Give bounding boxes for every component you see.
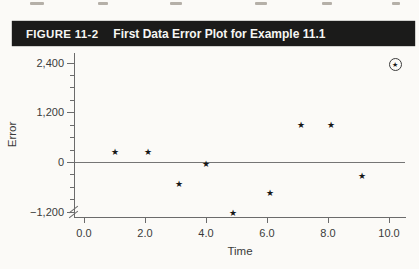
data-point-star: ★: [110, 147, 120, 157]
y-minor-tick: [70, 187, 74, 188]
data-point-star: ★: [326, 120, 336, 130]
x-major-tick: [328, 218, 329, 223]
y-minor-tick: [70, 150, 74, 151]
y-axis-line: [74, 53, 75, 218]
x-tick-label: 4.0: [189, 227, 223, 240]
y-minor-tick: [70, 137, 74, 138]
x-tick-label: 0.0: [67, 227, 101, 240]
y-minor-tick: [70, 125, 74, 126]
y-tick-label: −1,200: [22, 206, 64, 219]
y-tick-label: 2,400: [22, 57, 64, 70]
y-major-tick: [67, 162, 74, 163]
x-major-tick: [389, 218, 390, 223]
x-tick-label: 6.0: [250, 227, 284, 240]
data-point-star: ★: [143, 147, 153, 157]
x-tick-label: 8.0: [311, 227, 345, 240]
scatter-plot: Error Time −1,20001,2002,4000.02.04.06.0…: [0, 0, 419, 269]
data-point-star: ★: [174, 179, 184, 189]
data-point-star: ★: [265, 188, 275, 198]
y-minor-tick: [70, 100, 74, 101]
y-minor-tick: [70, 75, 74, 76]
x-major-tick: [84, 218, 85, 223]
zero-line: [75, 162, 405, 163]
x-tick-label: 2.0: [128, 227, 162, 240]
x-major-tick: [206, 218, 207, 223]
y-major-tick: [67, 63, 74, 64]
data-point-star: ★: [228, 208, 238, 218]
y-axis-title: Error: [6, 115, 19, 155]
x-tick-label: 10.0: [372, 227, 406, 240]
data-point-star: ★: [357, 171, 367, 181]
data-point-star: ★: [296, 120, 306, 130]
outlier-circle: ★: [389, 58, 402, 71]
x-axis-title: Time: [220, 245, 260, 257]
x-axis-line: [74, 217, 406, 218]
x-major-tick: [145, 218, 146, 223]
y-minor-tick: [70, 87, 74, 88]
data-point-star: ★: [201, 159, 211, 169]
y-tick-label: 1,200: [22, 106, 64, 119]
figure-panel: FIGURE 11-2 First Data Error Plot for Ex…: [0, 0, 419, 269]
y-major-tick: [67, 112, 74, 113]
y-tick-label: 0: [22, 156, 64, 169]
y-minor-tick: [70, 199, 74, 200]
data-point-star: ★: [390, 59, 401, 70]
x-major-tick: [267, 218, 268, 223]
y-minor-tick: [70, 174, 74, 175]
